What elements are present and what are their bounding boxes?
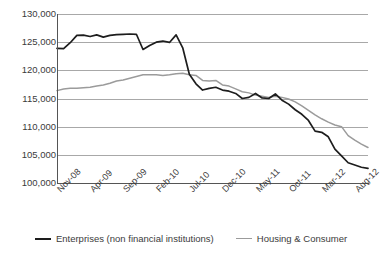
- legend-item-enterprises: Enterprises (non financial institutions): [35, 233, 214, 244]
- chart-legend: Enterprises (non financial institutions)…: [0, 233, 382, 244]
- legend-swatch-gray-icon: [236, 238, 252, 239]
- y-tick-label: 130,000: [22, 8, 56, 19]
- legend-label-housing-consumer: Housing & Consumer: [257, 233, 347, 244]
- y-tick-label: 105,000: [22, 149, 56, 160]
- y-tick-label: 120,000: [22, 64, 56, 75]
- legend-label-enterprises: Enterprises (non financial institutions): [56, 233, 214, 244]
- y-tick-label: 115,000: [22, 93, 56, 104]
- series-plot: [57, 14, 368, 183]
- series-line-housing-consumer: [57, 73, 368, 147]
- y-tick-label: 125,000: [22, 36, 56, 47]
- y-tick-label: 100,000: [22, 177, 56, 188]
- y-axis: [57, 14, 58, 184]
- series-line-enterprises: [57, 34, 368, 168]
- legend-item-housing-consumer: Housing & Consumer: [236, 233, 347, 244]
- plot-area: [57, 14, 368, 183]
- line-chart: 130,000 125,000 120,000 115,000 110,000 …: [0, 0, 382, 259]
- y-tick-label: 110,000: [22, 121, 56, 132]
- legend-swatch-dark-icon: [35, 238, 51, 240]
